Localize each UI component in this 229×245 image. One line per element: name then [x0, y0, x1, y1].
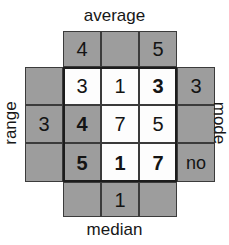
left-cell-2[interactable]: 3 — [25, 105, 63, 143]
top-cell-2[interactable] — [101, 31, 139, 67]
bottom-cell-1[interactable] — [63, 182, 101, 217]
grid-cell-r2c3[interactable]: 5 — [139, 105, 177, 143]
grid-cell-r2c2[interactable]: 7 — [101, 105, 139, 143]
clue-label-median: median — [0, 220, 229, 240]
bottom-cell-3[interactable] — [139, 182, 177, 217]
grid-cell-r3c1[interactable]: 5 — [63, 143, 101, 182]
grid-cell-r1c2[interactable]: 1 — [101, 67, 139, 105]
clue-label-average: average — [0, 6, 229, 26]
bottom-cell-2[interactable]: 1 — [101, 182, 139, 217]
left-cell-3[interactable] — [25, 143, 63, 182]
left-cell-1[interactable] — [25, 67, 63, 105]
grid-cell-r3c3[interactable]: 7 — [139, 143, 177, 182]
cross-number-puzzle: 4 5 3 3 no 3 1 3 4 7 5 5 1 7 1 average m… — [0, 0, 229, 245]
grid-cell-r2c1[interactable]: 4 — [63, 105, 101, 143]
grid-cell-r1c3[interactable]: 3 — [139, 67, 177, 105]
grid-cell-r1c1[interactable]: 3 — [63, 67, 101, 105]
top-cell-1[interactable]: 4 — [63, 31, 101, 67]
clue-label-range: range — [1, 91, 21, 155]
grid-cell-r3c2[interactable]: 1 — [101, 143, 139, 182]
top-cell-3[interactable]: 5 — [139, 31, 177, 67]
clue-label-mode: mode — [209, 91, 229, 155]
